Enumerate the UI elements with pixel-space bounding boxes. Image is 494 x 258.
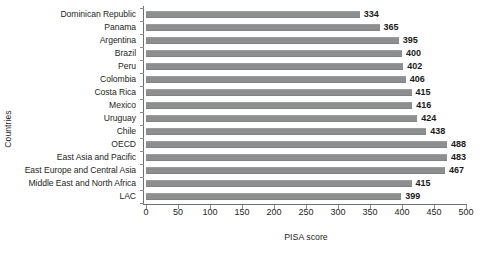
category-label: Costa Rica <box>24 86 139 99</box>
x-axis-tick-label: 350 <box>362 208 377 217</box>
bar <box>146 63 403 70</box>
bar <box>146 154 447 161</box>
bar-value-label: 365 <box>384 23 399 32</box>
bar <box>146 180 412 187</box>
x-axis-line <box>143 204 467 205</box>
bar-row: 424 <box>146 112 466 125</box>
bar <box>146 141 447 148</box>
y-axis-tick <box>140 112 144 113</box>
category-label-column: Dominican RepublicPanamaArgentinaBrazilP… <box>24 8 139 203</box>
x-axis-tick-label: 250 <box>298 208 313 217</box>
y-axis-tick <box>140 138 144 139</box>
x-axis-tick-labels: 050100150200250300350400450500 <box>146 208 466 220</box>
bar-row: 334 <box>146 8 466 21</box>
bar-row: 399 <box>146 190 466 203</box>
bar-row: 365 <box>146 21 466 34</box>
bar <box>146 76 406 83</box>
bar-value-label: 467 <box>449 166 464 175</box>
bar-row: 415 <box>146 86 466 99</box>
bar <box>146 50 402 57</box>
x-axis-tick-label: 50 <box>173 208 183 217</box>
bar-row: 483 <box>146 151 466 164</box>
y-axis-tick <box>140 203 144 204</box>
bar-value-label: 400 <box>406 49 421 58</box>
bar <box>146 11 360 18</box>
bar-value-label: 395 <box>403 36 418 45</box>
bar-value-label: 424 <box>421 114 436 123</box>
x-axis-tick-label: 450 <box>426 208 441 217</box>
y-axis-tick <box>140 34 144 35</box>
x-axis-tick-label: 300 <box>330 208 345 217</box>
bar-rows: 3343653954004024064154164244384884834674… <box>146 8 466 203</box>
category-label: Chile <box>24 125 139 138</box>
bar-value-label: 399 <box>405 192 420 201</box>
bar <box>146 89 412 96</box>
category-label: East Europe and Central Asia <box>24 164 139 177</box>
x-axis-tick-label: 100 <box>202 208 217 217</box>
bar-row: 406 <box>146 73 466 86</box>
y-axis-tick <box>140 73 144 74</box>
category-label: Mexico <box>24 99 139 112</box>
y-axis-tick <box>140 190 144 191</box>
bar <box>146 193 401 200</box>
y-axis-tick <box>140 99 144 100</box>
bar-value-label: 438 <box>430 127 445 136</box>
bar <box>146 115 417 122</box>
bar-value-label: 483 <box>451 153 466 162</box>
y-axis-tick <box>140 164 144 165</box>
category-label: Uruguay <box>24 112 139 125</box>
y-axis-tick <box>140 177 144 178</box>
category-label: Brazil <box>24 47 139 60</box>
category-label: Peru <box>24 60 139 73</box>
category-label: Colombia <box>24 73 139 86</box>
bar <box>146 128 426 135</box>
bar-value-label: 488 <box>451 140 466 149</box>
y-axis-line <box>143 6 144 205</box>
pisa-score-bar-chart: Countries Dominican RepublicPanamaArgent… <box>0 0 494 258</box>
category-label: Middle East and North Africa <box>24 177 139 190</box>
bar-value-label: 334 <box>364 10 379 19</box>
bar-value-label: 416 <box>416 101 431 110</box>
x-axis-title: PISA score <box>146 232 466 242</box>
category-label: Dominican Republic <box>24 8 139 21</box>
bar-value-label: 406 <box>410 75 425 84</box>
x-axis-tick-label: 150 <box>234 208 249 217</box>
y-axis-tick <box>140 151 144 152</box>
y-axis-tick <box>140 47 144 48</box>
bar-row: 395 <box>146 34 466 47</box>
plot-area: 3343653954004024064154164244384884834674… <box>146 8 466 203</box>
y-axis-title: Countries <box>0 0 16 258</box>
category-label: East Asia and Pacific <box>24 151 139 164</box>
bar-row: 467 <box>146 164 466 177</box>
category-label: OECD <box>24 138 139 151</box>
bar-row: 488 <box>146 138 466 151</box>
bar-value-label: 402 <box>407 62 422 71</box>
bar-row: 416 <box>146 99 466 112</box>
bar <box>146 37 399 44</box>
bar-row: 438 <box>146 125 466 138</box>
x-axis-tick-label: 0 <box>143 208 148 217</box>
y-axis-tick <box>140 8 144 9</box>
bar <box>146 167 445 174</box>
x-axis-tick-label: 400 <box>394 208 409 217</box>
x-axis-tick-label: 200 <box>266 208 281 217</box>
y-axis-tick <box>140 60 144 61</box>
bar-value-label: 415 <box>416 179 431 188</box>
bar <box>146 102 412 109</box>
category-label: Argentina <box>24 34 139 47</box>
bar-row: 400 <box>146 47 466 60</box>
bar-row: 402 <box>146 60 466 73</box>
bar-value-label: 415 <box>416 88 431 97</box>
y-axis-tick <box>140 86 144 87</box>
y-axis-tick <box>140 21 144 22</box>
category-label: Panama <box>24 21 139 34</box>
bar <box>146 24 380 31</box>
y-axis-tick <box>140 125 144 126</box>
x-axis-tick-label: 500 <box>458 208 473 217</box>
bar-row: 415 <box>146 177 466 190</box>
category-label: LAC <box>24 190 139 203</box>
